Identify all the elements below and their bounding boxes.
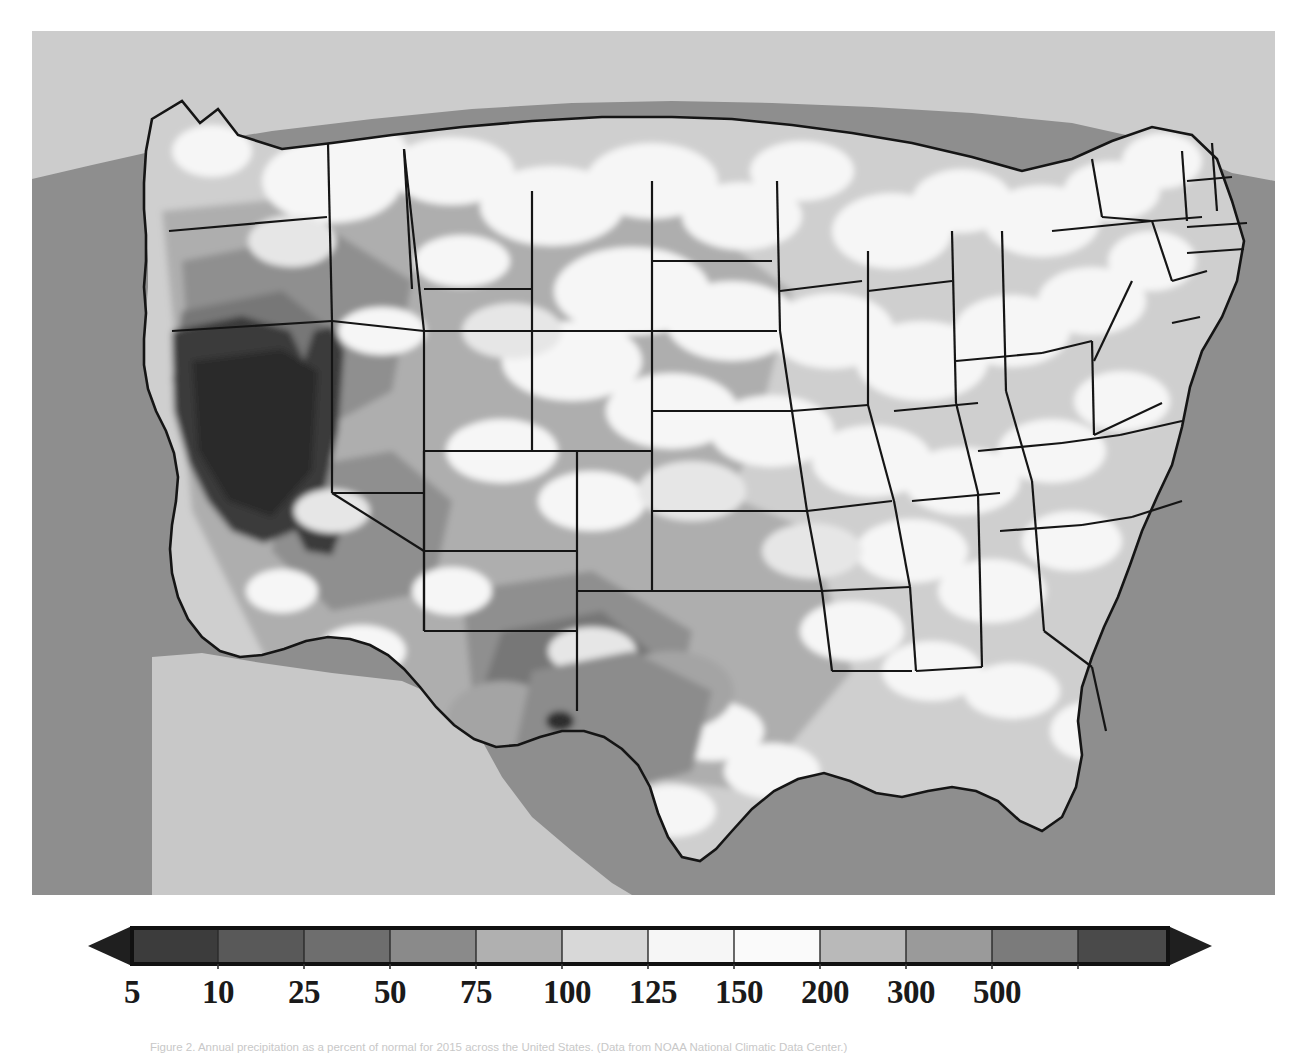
colorbar-segments [132, 928, 1168, 964]
colorbar-svg [88, 923, 1212, 969]
colorbar: 5 10 25 50 75 100 125 150 200 300 500 [0, 915, 1299, 1025]
colorbar-tick-label: 5 [124, 973, 140, 1011]
colorbar-tick-label: 200 [801, 973, 849, 1011]
colorbar-right-cap [1168, 926, 1212, 966]
colorbar-left-cap [88, 926, 132, 966]
colorbar-tick-label: 10 [202, 973, 234, 1011]
colorbar-tick-label: 150 [715, 973, 763, 1011]
colorbar-tick-label: 125 [629, 973, 677, 1011]
colorbar-tick-label: 300 [887, 973, 935, 1011]
precipitation-map [32, 31, 1275, 895]
colorbar-tick-labels: 5 10 25 50 75 100 125 150 200 300 500 [88, 973, 1212, 1023]
colorbar-tick-label: 500 [973, 973, 1021, 1011]
colorbar-tick-label: 75 [460, 973, 492, 1011]
figure-root: 5 10 25 50 75 100 125 150 200 300 500 Fi… [0, 0, 1299, 1054]
colorbar-tick-label: 100 [543, 973, 591, 1011]
figure-caption: Figure 2. Annual precipitation as a perc… [150, 1040, 1290, 1054]
colorbar-gradient [88, 923, 1212, 969]
colorbar-tick-label: 25 [288, 973, 320, 1011]
colorbar-tick-label: 50 [374, 973, 406, 1011]
map-svg [32, 31, 1275, 895]
